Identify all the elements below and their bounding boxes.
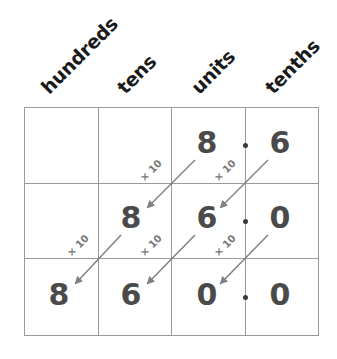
decimal-point — [243, 219, 248, 224]
digit-cell: 6 — [260, 128, 300, 158]
digit-cell: 0 — [260, 203, 300, 233]
digit-cell: 0 — [187, 280, 227, 310]
digit-cell: 6 — [187, 203, 227, 233]
decimal-point — [243, 143, 248, 148]
digit-cell: 8 — [111, 203, 151, 233]
digit-cell: 8 — [39, 280, 79, 310]
digit-cell: 8 — [187, 128, 227, 158]
decimal-point — [243, 295, 248, 300]
digit-cell: 0 — [260, 280, 300, 310]
digit-cell: 6 — [111, 280, 151, 310]
